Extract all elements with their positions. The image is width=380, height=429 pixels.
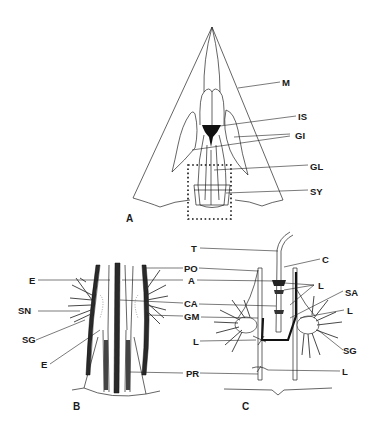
panel-label-b: B [73, 401, 80, 412]
panel-b-leaders [36, 268, 183, 373]
label-pr: PR [186, 368, 199, 379]
label-po: PO [184, 263, 198, 274]
label-sa: SA [345, 287, 358, 298]
label-m: M [282, 77, 290, 88]
panel-b-drawing [68, 263, 168, 396]
label-gl: GL [310, 161, 323, 172]
panel-c-leaders [197, 248, 344, 374]
panel-label-c: C [242, 401, 249, 412]
label-gm: GM [184, 311, 199, 322]
label-c-l-left: L [193, 336, 199, 347]
label-ca: CA [184, 298, 198, 309]
label-is: IS [298, 111, 307, 122]
label-b-e-bottom: E [41, 359, 47, 370]
label-c-l-upper: L [318, 280, 324, 291]
panel-a-drawing [133, 27, 283, 219]
label-b-sn: SN [18, 305, 31, 316]
figure-canvas: M IS GI GL SY A [0, 0, 380, 429]
label-a: A [188, 275, 195, 286]
label-sy: SY [310, 186, 323, 197]
label-b-sg: SG [22, 334, 36, 345]
label-c-sg: SG [343, 345, 357, 356]
anatomical-figure: M IS GI GL SY A [0, 0, 380, 429]
label-b-e-top: E [29, 275, 35, 286]
panel-label-a: A [126, 213, 133, 224]
label-c-l-bottom: L [342, 366, 348, 377]
label-c-l-right: L [347, 305, 353, 316]
label-gi: GI [295, 130, 305, 141]
label-t: T [191, 243, 197, 254]
label-c: C [322, 254, 329, 265]
